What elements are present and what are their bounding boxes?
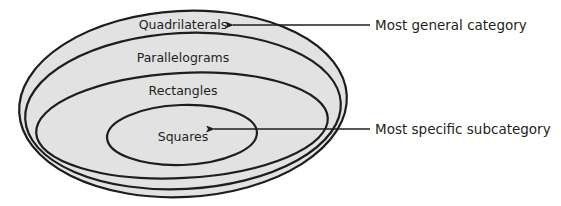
label-squares: Squares — [158, 129, 209, 144]
label-quadrilaterals: Quadrilaterals — [139, 17, 227, 32]
callout-most-general: Most general category — [375, 17, 527, 33]
callout-most-specific: Most specific subcategory — [375, 121, 551, 137]
label-parallelograms: Parallelograms — [137, 50, 230, 65]
nested-sets-diagram: Quadrilaterals Parallelograms Rectangles… — [0, 0, 561, 206]
label-rectangles: Rectangles — [149, 83, 218, 98]
